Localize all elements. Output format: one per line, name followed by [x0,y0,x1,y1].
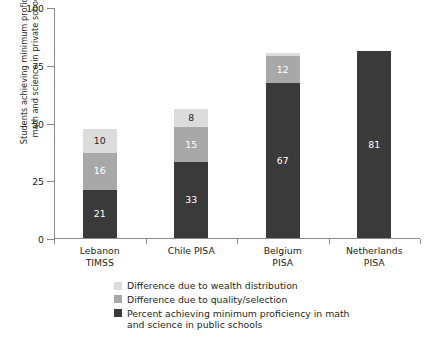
x-tick-mark [420,239,421,244]
bar-segment-series-3[interactable]: 10 [83,129,117,152]
legend-item-2[interactable]: Difference due to quality/selection [114,294,414,305]
legend-item-1[interactable]: Difference due to wealth distribution [114,280,414,291]
y-tick-mark [47,8,54,9]
legend-swatch-icon [114,282,122,290]
legend-label: Difference due to quality/selection [127,294,287,305]
plot-area: 0255075100 21161033158671281 [54,8,420,239]
legend-label: Difference due to wealth distribution [127,280,298,291]
legend-label-line: Difference due to quality/selection [127,294,287,305]
x-axis-label-4: NetherlandsPISA [319,245,429,268]
bar-segment-series-2[interactable]: 12 [266,56,300,84]
stacked-bar-chart: Students achieving minimum proficiency i… [0,0,429,346]
bar-value-label: 10 [94,136,106,145]
y-axis-title-line1: Students achieving minimum proficiency i… [19,0,29,144]
x-tick-mark [146,239,147,244]
legend-label-line: Percent achieving minimum proficiency in… [127,308,350,319]
x-axis-label-line: PISA [319,257,429,269]
x-tick-mark [54,239,55,244]
y-tick-mark [47,66,54,67]
bar-belgium-pisa[interactable]: 6712 [266,53,300,238]
bar-value-label: 33 [185,195,197,204]
bar-segment-series-1[interactable]: 67 [266,83,300,238]
bar-segment-series-1[interactable]: 21 [83,190,117,239]
y-axis-title: Students achieving minimum proficiency i… [16,0,44,165]
bar-segment-series-1[interactable]: 33 [174,162,208,238]
bar-value-label: 12 [277,65,289,74]
bar-lebanon-timss[interactable]: 211610 [83,129,117,238]
legend-swatch-icon [114,295,122,303]
bar-chile-pisa[interactable]: 33158 [174,109,208,238]
legend-swatch-icon [114,309,122,317]
legend-item-3[interactable]: Percent achieving minimum proficiency in… [114,308,414,331]
x-axis-label-line: Netherlands [319,245,429,257]
chart-legend: Difference due to wealth distributionDif… [114,280,414,333]
y-tick-label: 100 [26,3,44,14]
x-tick-mark [237,239,238,244]
x-tick-mark [329,239,330,244]
bar-value-label: 15 [185,140,197,149]
x-axis-label-line: TIMSS [45,257,155,269]
bar-value-label: 16 [94,166,106,175]
y-tick-mark [47,239,54,240]
y-axis-line [54,8,55,239]
bar-netherlands-pisa[interactable]: 81 [357,51,391,238]
bar-segment-series-2[interactable]: 16 [83,153,117,190]
bar-value-label: 21 [94,209,106,218]
y-tick-label: 0 [38,234,44,245]
legend-label-line: Difference due to wealth distribution [127,280,298,291]
bar-value-label: 81 [368,140,380,149]
y-tick-label: 50 [32,118,44,129]
legend-label: Percent achieving minimum proficiency in… [127,308,350,331]
y-tick-label: 75 [32,60,44,71]
bar-segment-series-1[interactable]: 81 [357,51,391,238]
legend-label-line: and science in public schools [127,319,350,330]
bar-value-label: 8 [188,113,194,122]
y-tick-label: 25 [32,176,44,187]
bar-value-label: 67 [277,156,289,165]
bar-segment-series-3[interactable]: 8 [174,109,208,127]
y-tick-mark [47,124,54,125]
bar-segment-series-2[interactable]: 15 [174,127,208,162]
bar-segment-series-3[interactable] [266,53,300,55]
y-tick-mark [47,181,54,182]
